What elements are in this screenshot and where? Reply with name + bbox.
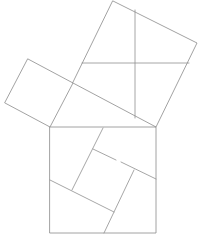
hypotenuse-square-cut xyxy=(50,180,114,212)
pythagorean-dissection-diagram xyxy=(0,0,199,243)
hypotenuse-square-cut xyxy=(121,162,156,179)
hypotenuse-square-cut xyxy=(104,170,134,233)
cuts-layer xyxy=(50,10,189,233)
hypotenuse-square-cut xyxy=(93,149,116,160)
leg-square-small xyxy=(5,59,73,127)
shapes-layer xyxy=(5,1,197,233)
hypotenuse-square-cut xyxy=(72,128,103,190)
hypotenuse-square xyxy=(50,127,156,233)
